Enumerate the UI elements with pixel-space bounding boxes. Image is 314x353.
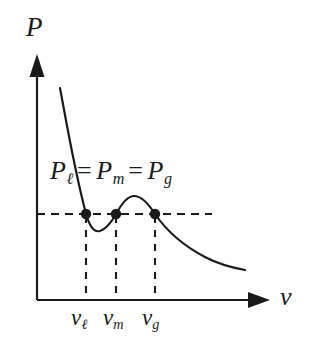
isotherm-figure: P v Pℓ=Pm=Pg vℓ vm vg [0, 0, 314, 353]
tick-label-v-middle-sub: m [113, 316, 123, 332]
x-axis-label: v [280, 284, 292, 310]
p-gas-subscript: g [164, 170, 172, 187]
marker-middle-point [111, 209, 121, 219]
marker-gas-point [150, 209, 160, 219]
tick-label-v-gas: vg [142, 306, 159, 331]
marker-liquid-point [81, 209, 91, 219]
y-axis-label: P [26, 14, 43, 41]
tick-label-v-liquid: vℓ [71, 306, 87, 331]
x-axis-arrowhead-icon [248, 292, 270, 308]
equals-sign-2: = [124, 156, 147, 185]
tick-label-v-liquid-sub: ℓ [81, 316, 87, 332]
p-middle-subscript: m [113, 170, 125, 187]
p-gas-symbol: P [147, 156, 163, 185]
tick-label-v-gas-sub: g [152, 316, 159, 332]
tick-label-v-gas-base: v [142, 305, 152, 330]
equals-sign-1: = [73, 156, 96, 185]
pressure-equality-annotation: Pℓ=Pm=Pg [50, 158, 172, 187]
y-axis-arrowhead-icon [30, 54, 45, 77]
tick-label-v-liquid-base: v [71, 305, 81, 330]
p-liquid-symbol: P [50, 156, 66, 185]
tick-label-v-middle-base: v [103, 305, 113, 330]
tick-label-v-middle: vm [103, 306, 124, 331]
p-middle-symbol: P [96, 156, 112, 185]
